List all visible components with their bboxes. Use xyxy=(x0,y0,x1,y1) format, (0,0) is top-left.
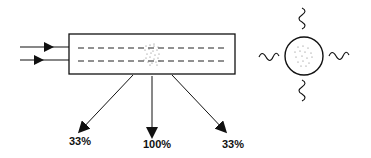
wave-right-icon xyxy=(329,52,349,59)
output-label-center: 100% xyxy=(143,138,171,150)
arrowhead-icon xyxy=(34,55,44,65)
arrowhead-icon xyxy=(44,42,54,52)
output-label-right: 33% xyxy=(222,138,244,150)
output-label-left: 33% xyxy=(69,135,91,147)
wave-left-icon xyxy=(259,53,279,60)
output-arrow-left xyxy=(80,75,133,131)
waveguide-box xyxy=(69,34,235,74)
input-arrow-lower xyxy=(20,55,69,65)
wave-bottom-icon xyxy=(299,80,305,101)
diagram-canvas: 33% 100% 33% xyxy=(0,0,371,158)
output-arrow-right xyxy=(172,75,225,131)
particle-circle xyxy=(285,37,323,75)
input-arrow-upper xyxy=(20,42,69,52)
wave-top-icon xyxy=(299,8,305,29)
